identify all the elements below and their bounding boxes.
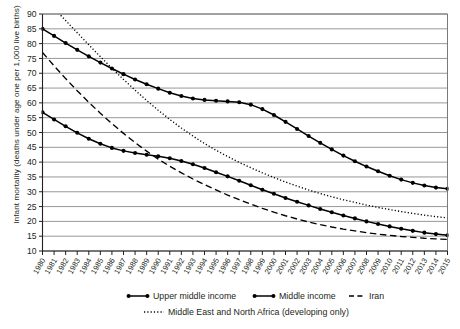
- y-tick-label: 75: [27, 54, 37, 64]
- series-marker: [87, 54, 91, 58]
- y-tick-label: 35: [27, 172, 37, 182]
- series-line-3: [43, 0, 448, 218]
- series-marker: [376, 169, 380, 173]
- series-marker: [353, 216, 357, 220]
- series-marker: [399, 227, 403, 231]
- y-tick-label: 90: [27, 9, 37, 19]
- y-tick-label: 85: [27, 24, 37, 34]
- series-marker: [272, 113, 276, 117]
- y-tick-label: 60: [27, 98, 37, 108]
- series-marker: [364, 165, 368, 169]
- series-marker: [376, 222, 380, 226]
- series-marker: [110, 146, 114, 150]
- series-marker: [283, 120, 287, 124]
- y-tick-label: 10: [27, 246, 37, 256]
- series-marker: [179, 94, 183, 98]
- series-marker: [156, 87, 160, 91]
- series-marker: [260, 188, 264, 192]
- data-series-group: [40, 0, 449, 239]
- series-marker: [341, 154, 345, 158]
- series-marker: [202, 166, 206, 170]
- series-marker: [295, 127, 299, 131]
- y-tick-label: 25: [27, 202, 37, 212]
- series-marker: [434, 232, 438, 236]
- y-tick-label: 20: [27, 216, 37, 226]
- series-marker: [75, 131, 79, 135]
- series-marker: [202, 98, 206, 102]
- plot-area-container: 1015202530354045505560657075808590 19801…: [0, 0, 460, 329]
- series-marker: [295, 200, 299, 204]
- series-line-1: [43, 112, 448, 235]
- series-marker: [341, 213, 345, 217]
- chart-svg: 1015202530354045505560657075808590 19801…: [0, 0, 460, 329]
- series-marker: [98, 142, 102, 146]
- series-marker: [330, 147, 334, 151]
- series-marker: [75, 48, 79, 52]
- series-marker: [307, 203, 311, 207]
- series-marker: [399, 178, 403, 182]
- series-marker: [52, 117, 56, 121]
- y-tick-label: 70: [27, 68, 37, 78]
- y-tick-label: 40: [27, 157, 37, 167]
- series-marker: [388, 224, 392, 228]
- series-marker: [145, 153, 149, 157]
- series-marker: [214, 99, 218, 103]
- series-line-0: [43, 29, 448, 189]
- series-marker: [52, 34, 56, 38]
- series-marker: [191, 96, 195, 100]
- series-marker: [237, 100, 241, 104]
- series-marker: [330, 210, 334, 214]
- x-tick-label: 2015: [436, 257, 452, 276]
- series-line-2: [43, 53, 448, 240]
- series-marker: [98, 61, 102, 65]
- series-marker: [110, 66, 114, 70]
- series-marker: [353, 159, 357, 163]
- x-axis-ticks: 1980198119821983198419851986198719881989…: [31, 251, 452, 276]
- legend-label-iran: Iran: [369, 291, 384, 301]
- series-marker: [168, 156, 172, 160]
- y-tick-label: 50: [27, 128, 37, 138]
- legend-label-middle-income: Middle income: [279, 291, 336, 301]
- series-marker: [145, 82, 149, 86]
- infant-mortality-chart-figure: Infant mortality (deaths under age one p…: [0, 0, 460, 329]
- series-marker: [64, 124, 68, 128]
- series-marker: [121, 149, 125, 153]
- y-tick-label: 80: [27, 39, 37, 49]
- series-marker: [226, 99, 230, 103]
- series-marker: [226, 174, 230, 178]
- series-marker: [422, 183, 426, 187]
- series-marker: [249, 183, 253, 187]
- legend-label-mena: Middle East and North Africa (developing…: [168, 307, 349, 317]
- series-marker: [87, 137, 91, 141]
- series-marker: [318, 141, 322, 145]
- y-tick-label: 55: [27, 113, 37, 123]
- series-marker: [214, 170, 218, 174]
- series-marker: [249, 103, 253, 107]
- y-axis-ticks: 1015202530354045505560657075808590: [27, 9, 43, 256]
- series-marker: [364, 219, 368, 223]
- series-marker: [318, 207, 322, 211]
- series-marker: [133, 151, 137, 155]
- y-tick-label: 65: [27, 83, 37, 93]
- legend-label-upper-middle-income: Upper middle income: [153, 291, 236, 301]
- series-marker: [283, 196, 287, 200]
- series-marker: [191, 162, 195, 166]
- series-marker: [237, 179, 241, 183]
- series-marker: [272, 192, 276, 196]
- series-marker: [411, 229, 415, 233]
- series-marker: [168, 91, 172, 95]
- series-marker: [121, 72, 125, 76]
- series-marker: [434, 186, 438, 190]
- gridlines-group: [43, 14, 448, 251]
- series-marker: [133, 77, 137, 81]
- y-tick-label: 15: [27, 231, 37, 241]
- chart-legend: Upper middle incomeMiddle incomeIranMidd…: [127, 291, 385, 317]
- y-tick-label: 45: [27, 142, 37, 152]
- series-marker: [411, 181, 415, 185]
- series-marker: [179, 159, 183, 163]
- series-marker: [64, 41, 68, 45]
- series-marker: [307, 134, 311, 138]
- series-marker: [260, 107, 264, 111]
- series-marker: [388, 174, 392, 178]
- series-marker: [422, 231, 426, 235]
